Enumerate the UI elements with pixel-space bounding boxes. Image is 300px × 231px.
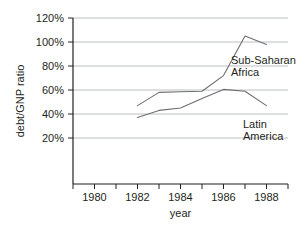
x-axis-title: year — [170, 207, 192, 219]
y-tick-label-100: 100% — [36, 36, 64, 48]
y-axis-title: debt/GNP ratio — [14, 65, 26, 138]
x-tick-label-1984: 1984 — [168, 191, 192, 203]
series-annotation-latin-america: Latin America — [243, 118, 284, 142]
annotation-sub-saharan-line1: Sub-Saharan — [231, 54, 296, 66]
y-tick-label-120: 120% — [36, 12, 64, 24]
x-tick-label-1982: 1982 — [125, 191, 149, 203]
x-tick-label-1988: 1988 — [254, 191, 278, 203]
chart-figure: 120% 100% 80% 60% 40% 20% 1980 1982 1984… — [0, 0, 300, 231]
annotation-latin-line1: Latin — [243, 118, 267, 130]
debt-gnp-ratio-line-chart: 120% 100% 80% 60% 40% 20% 1980 1982 1984… — [0, 0, 300, 231]
y-tick-label-80: 80% — [42, 60, 64, 72]
x-axis-ticks — [73, 184, 288, 189]
annotation-latin-line2: America — [243, 130, 284, 142]
y-tick-label-60: 60% — [42, 84, 64, 96]
x-tick-label-1980: 1980 — [82, 191, 106, 203]
x-tick-label-1986: 1986 — [211, 191, 235, 203]
y-tick-label-40: 40% — [42, 108, 64, 120]
annotation-sub-saharan-line2: Africa — [231, 66, 260, 78]
y-axis-ticks — [68, 18, 73, 138]
y-tick-label-20: 20% — [42, 132, 64, 144]
